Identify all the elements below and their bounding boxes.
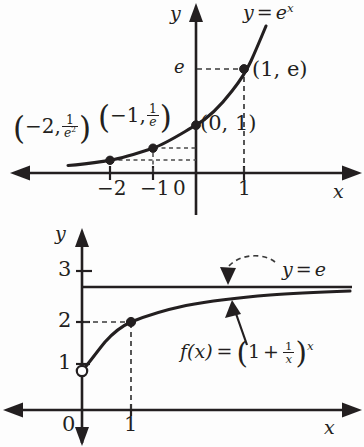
top-label-neg2-close-paren: ) — [79, 110, 91, 146]
top-curve-label: y=ex — [243, 3, 294, 22]
bottom-tick-label-zero: 0 — [62, 414, 75, 435]
top-label-neg1-close-paren: ) — [160, 99, 172, 135]
bottom-function-label-open-paren: ( — [237, 336, 249, 370]
top-y-axis-arrowhead — [189, 3, 203, 22]
bottom-function-label-denominator: x — [283, 352, 294, 365]
top-label-neg1-denominator: e — [147, 115, 158, 129]
bottom-asymptote-callout-arrow — [220, 256, 275, 285]
bottom-function-label-name: f(x) — [180, 340, 213, 362]
bottom-y-axis-bottom-arrowhead — [75, 427, 89, 446]
top-x-axis-label: x — [333, 182, 344, 201]
top-curve-label-e: e — [276, 1, 287, 23]
bottom-dashed-guides — [84, 322, 131, 409]
top-label-point-neg1: (−1,1e) — [98, 101, 172, 132]
top-point-neg2 — [106, 156, 114, 164]
top-point-one-e — [240, 65, 249, 74]
top-label-neg2-open-paren: ( — [13, 110, 25, 146]
bottom-tick-label-two: 2 — [58, 310, 71, 331]
bottom-tick-label-x-one: 1 — [124, 414, 137, 435]
bottom-function-label: f(x)=(1+1x)x — [180, 338, 314, 367]
bottom-tick-label-one: 1 — [58, 352, 71, 373]
top-label-neg1-fraction: 1e — [147, 103, 159, 129]
bottom-y-ticks — [76, 271, 92, 364]
top-e-tick-label: e — [174, 58, 185, 76]
bottom-function-label-close-paren: ) — [296, 336, 308, 370]
top-x-axis-left-arrowhead — [10, 166, 30, 181]
top-exponential-curve — [68, 26, 266, 166]
top-curve-label-eq: = — [257, 1, 273, 23]
bottom-y-axis-top-arrowhead — [75, 228, 89, 247]
bottom-y-axis — [75, 228, 89, 446]
bottom-x-axis-left-arrowhead — [3, 403, 23, 418]
top-curve-label-exponent: x — [287, 1, 294, 15]
bottom-x-axis-label: x — [324, 418, 335, 437]
top-y-axis — [189, 3, 203, 215]
bottom-asymptote-label-eq: = — [296, 258, 312, 280]
bottom-tick-label-three: 3 — [58, 259, 71, 280]
bottom-function-label-one: 1 — [248, 340, 260, 362]
top-label-neg2-x: −2, — [25, 114, 61, 138]
bottom-function-label-fraction: 1x — [283, 340, 295, 365]
bottom-function-label-exponent: x — [307, 339, 314, 353]
top-tick-label-neg2: −2 — [97, 178, 126, 198]
bottom-x-axis — [3, 403, 362, 418]
top-x-axis — [10, 166, 362, 181]
top-tick-label-one: 1 — [238, 178, 251, 198]
bottom-open-circle-origin — [77, 366, 87, 376]
bottom-asymptote-arrowhead — [220, 267, 236, 285]
top-label-neg2-den-exponent: 2 — [71, 125, 76, 134]
top-x-axis-right-arrowhead — [342, 166, 362, 181]
top-label-point-neg2: (−2,1e2) — [13, 112, 91, 143]
bottom-x-axis-right-arrowhead — [342, 403, 362, 418]
top-label-neg2-denominator: e2 — [62, 126, 78, 140]
bottom-asymptote-label-e: e — [315, 258, 326, 280]
math-figure: y x e −2 −1 0 1 y=ex (1, e) (0, 1) (−2,1… — [0, 0, 364, 447]
bottom-asymptote-label: y=e — [282, 260, 326, 279]
bottom-graph-canvas — [0, 215, 364, 447]
bottom-asymptote-label-y: y — [282, 258, 293, 280]
top-point-neg1 — [149, 144, 157, 152]
bottom-function-label-plus: + — [263, 340, 279, 362]
top-label-point-one-e: (1, e) — [252, 59, 308, 80]
top-label-point-zero-one: (0, 1) — [200, 113, 256, 134]
top-tick-label-zero: 0 — [173, 178, 186, 198]
bottom-function-label-eq: = — [217, 340, 233, 362]
bottom-y-axis-label: y — [55, 224, 66, 243]
top-tick-label-neg1: −1 — [140, 178, 169, 198]
bottom-function-arrowhead — [225, 300, 241, 318]
top-label-neg1-x: −1, — [110, 103, 146, 127]
bottom-point-one-two — [126, 317, 135, 326]
top-label-neg2-fraction: 1e2 — [62, 114, 78, 140]
top-label-neg1-open-paren: ( — [98, 99, 110, 135]
top-curve-label-y: y — [243, 1, 254, 23]
bottom-function-label-numerator: 1 — [283, 340, 295, 352]
top-y-axis-label: y — [170, 4, 181, 23]
